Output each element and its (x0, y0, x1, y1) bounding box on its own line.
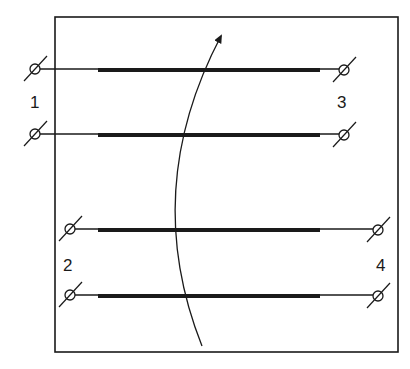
winding-2b (59, 282, 390, 308)
winding-1a (24, 56, 356, 82)
label-terminal-1: 1 (30, 93, 39, 112)
winding-1b (24, 121, 356, 147)
variable-arrow-icon (175, 36, 221, 346)
label-terminal-4: 4 (376, 256, 385, 275)
winding-2a (59, 216, 390, 242)
label-terminal-2: 2 (63, 256, 72, 275)
coupling-diagram: 1 3 2 4 (0, 0, 410, 369)
label-terminal-3: 3 (337, 93, 346, 112)
